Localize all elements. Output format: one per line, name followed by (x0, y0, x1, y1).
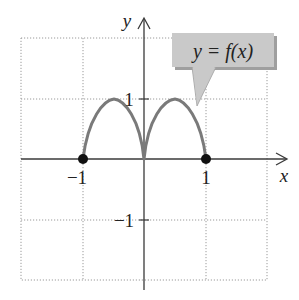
y-tick-neg1: −1 (114, 210, 134, 231)
callout-label: y = f(x) (191, 40, 253, 63)
function-graph: y = f(x) y x −1 1 1 −1 (0, 0, 299, 300)
y-axis-label: y (121, 10, 132, 31)
callout: y = f(x) (172, 33, 277, 106)
x-axis-label: x (279, 165, 289, 186)
point-neg1 (78, 154, 88, 164)
x-tick-neg1: −1 (67, 167, 87, 188)
y-tick-pos1: 1 (124, 89, 134, 110)
x-tick-pos1: 1 (201, 167, 211, 188)
point-pos1 (201, 154, 211, 164)
